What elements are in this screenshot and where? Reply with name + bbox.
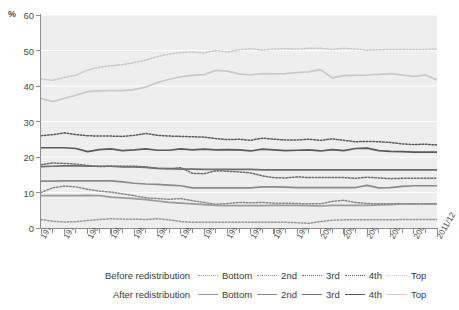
legend-entry-after-bottom[interactable]: Bottom bbox=[198, 289, 252, 300]
series-line bbox=[41, 166, 437, 170]
chart-lines-svg bbox=[41, 15, 437, 228]
series-line bbox=[41, 163, 437, 179]
legend-entry-label: 3rd bbox=[326, 270, 340, 281]
y-tick-label: 10 bbox=[10, 187, 34, 198]
series-line bbox=[41, 48, 437, 80]
chart-root: % 0102030405060 1977/781979/801981/82198… bbox=[0, 0, 459, 310]
legend-entry-label: 4th bbox=[369, 289, 382, 300]
legend-row-before-label: Before redistribution bbox=[0, 270, 198, 281]
series-line bbox=[41, 148, 437, 152]
legend-swatch-icon bbox=[198, 275, 218, 276]
legend-swatch-icon bbox=[345, 275, 365, 276]
legend-swatch-icon bbox=[257, 275, 277, 276]
legend-swatch-icon bbox=[387, 275, 407, 276]
legend-entry-before-top[interactable]: Top bbox=[387, 270, 426, 281]
legend-before-entries: Bottom2nd3rd4thTop bbox=[198, 270, 431, 281]
legend-swatch-icon bbox=[302, 275, 322, 276]
chart-legend: Before redistribution Bottom2nd3rd4thTop… bbox=[0, 264, 459, 310]
series-line bbox=[41, 133, 437, 145]
y-tick-label: 60 bbox=[10, 10, 34, 21]
legend-entry-before-3rd[interactable]: 3rd bbox=[302, 270, 340, 281]
legend-entry-after-2nd[interactable]: 2nd bbox=[257, 289, 297, 300]
y-tick-label: 20 bbox=[10, 152, 34, 163]
legend-entry-label: 2nd bbox=[281, 270, 297, 281]
series-line bbox=[41, 181, 437, 188]
legend-entry-label: Top bbox=[411, 270, 426, 281]
y-tick-label: 30 bbox=[10, 116, 34, 127]
legend-entry-after-4th[interactable]: 4th bbox=[345, 289, 382, 300]
legend-entry-before-4th[interactable]: 4th bbox=[345, 270, 382, 281]
legend-entry-before-bottom[interactable]: Bottom bbox=[198, 270, 252, 281]
legend-entry-after-top[interactable]: Top bbox=[387, 289, 426, 300]
y-tick-label: 0 bbox=[10, 223, 34, 234]
y-tick-label: 40 bbox=[10, 81, 34, 92]
legend-entry-label: 3rd bbox=[326, 289, 340, 300]
legend-swatch-icon bbox=[257, 294, 277, 295]
legend-entry-after-3rd[interactable]: 3rd bbox=[302, 289, 340, 300]
legend-entry-label: Bottom bbox=[222, 270, 252, 281]
legend-entry-label: 2nd bbox=[281, 289, 297, 300]
x-tick-label: 2011/12 bbox=[435, 211, 457, 241]
legend-row-after-label: After redistribution bbox=[0, 289, 198, 300]
legend-entry-before-2nd[interactable]: 2nd bbox=[257, 270, 297, 281]
legend-entry-label: Bottom bbox=[222, 289, 252, 300]
legend-swatch-icon bbox=[387, 294, 407, 295]
legend-swatch-icon bbox=[345, 294, 365, 295]
legend-entry-label: Top bbox=[411, 289, 426, 300]
y-tick-label: 50 bbox=[10, 45, 34, 56]
legend-row-after: After redistribution Bottom2nd3rd4thTop bbox=[0, 285, 459, 304]
series-line bbox=[41, 219, 437, 224]
legend-swatch-icon bbox=[302, 294, 322, 295]
legend-entry-label: 4th bbox=[369, 270, 382, 281]
legend-row-before: Before redistribution Bottom2nd3rd4thTop bbox=[0, 266, 459, 285]
legend-after-entries: Bottom2nd3rd4thTop bbox=[198, 289, 431, 300]
legend-swatch-icon bbox=[198, 294, 218, 295]
plot-area bbox=[41, 15, 437, 228]
